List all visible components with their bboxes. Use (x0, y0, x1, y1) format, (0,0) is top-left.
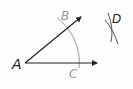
ray-ab (25, 17, 81, 63)
arc-bc (57, 18, 79, 68)
point-label-c: C (69, 68, 77, 80)
point-label-d: D (112, 13, 121, 25)
point-label-b: B (61, 10, 69, 22)
angle-construction-diagram: A B C D (0, 0, 133, 89)
point-label-a: A (12, 57, 22, 71)
